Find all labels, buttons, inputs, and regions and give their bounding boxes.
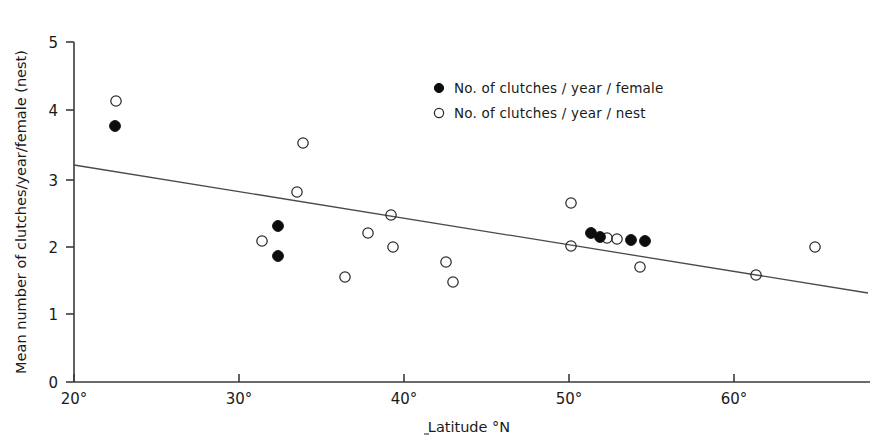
legend-marker-filled-circle-icon (434, 83, 443, 92)
data-point-filled (273, 251, 284, 262)
chart-legend: No. of clutches / year / female No. of c… (434, 80, 663, 121)
x-tick-label-30: 30° (226, 390, 253, 408)
legend-label-nest: No. of clutches / year / nest (454, 105, 646, 121)
series-clutches-per-nest (111, 96, 820, 287)
scatter-plot-canvas: 5 4 3 2 1 0 20° 30° 40° 50° 60° Latitude… (0, 0, 876, 445)
y-tick-label-5: 5 (48, 34, 58, 52)
data-point-filled (273, 221, 284, 232)
data-point-open (635, 262, 645, 272)
x-axis-title: Latitude °N (428, 419, 510, 435)
chart-figure: 5 4 3 2 1 0 20° 30° 40° 50° 60° Latitude… (0, 0, 876, 445)
y-tick-label-2: 2 (48, 239, 58, 257)
x-tick-label-20: 20° (61, 390, 88, 408)
data-point-open (566, 198, 576, 208)
x-tick-label-40: 40° (391, 390, 418, 408)
data-point-open (448, 277, 458, 287)
data-point-open (340, 272, 350, 282)
data-point-open (810, 242, 820, 252)
regression-line (74, 165, 868, 293)
data-point-open (292, 187, 302, 197)
y-axis-title: Mean number of clutches/year/female (nes… (13, 50, 29, 374)
data-point-filled (110, 121, 121, 132)
legend-marker-open-circle-icon (434, 108, 443, 117)
series-clutches-per-female (110, 121, 651, 262)
data-point-filled (626, 235, 637, 246)
y-tick-label-3: 3 (48, 172, 58, 190)
y-tick-label-0: 0 (48, 374, 58, 392)
legend-label-female: No. of clutches / year / female (454, 80, 663, 96)
y-tick-label-1: 1 (48, 306, 58, 324)
y-axis-tick-labels: 5 4 3 2 1 0 (48, 34, 58, 392)
data-point-open (257, 236, 267, 246)
data-point-filled (640, 236, 651, 247)
data-point-open (298, 138, 308, 148)
y-tick-label-4: 4 (48, 102, 58, 120)
y-axis-ticks (66, 42, 74, 382)
data-point-open (441, 257, 451, 267)
x-axis-ticks (74, 374, 734, 382)
data-point-open (388, 242, 398, 252)
x-tick-label-60: 60° (721, 390, 748, 408)
x-axis-tick-labels: 20° 30° 40° 50° 60° (61, 390, 748, 408)
x-tick-label-50: 50° (556, 390, 583, 408)
data-point-open (612, 234, 622, 244)
data-point-open (363, 228, 373, 238)
data-point-filled (595, 232, 606, 243)
data-point-open (111, 96, 121, 106)
